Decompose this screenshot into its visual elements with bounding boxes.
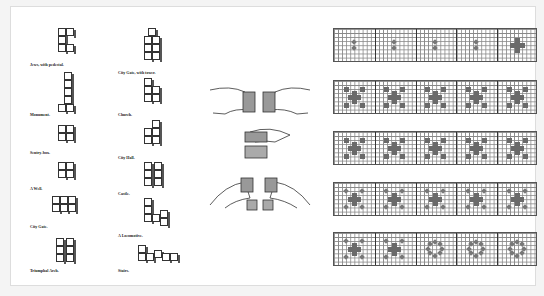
cube-block [152, 94, 160, 102]
pattern-tile [399, 254, 405, 260]
panel-divider [456, 29, 457, 61]
cube-block [66, 246, 74, 254]
cube-block [154, 162, 162, 170]
pattern-tile [425, 103, 430, 108]
cube-block [144, 198, 152, 206]
pattern-tile [523, 103, 528, 108]
cube-block [58, 162, 66, 170]
pattern-tile [391, 45, 397, 51]
pattern-tile [474, 99, 479, 104]
pattern-tile [482, 87, 487, 92]
cube-block [60, 204, 68, 212]
pattern-tile [441, 103, 446, 108]
cube-block [58, 36, 66, 44]
cube-block [162, 253, 170, 261]
pattern-tile [344, 103, 349, 108]
pattern-tile [399, 238, 405, 244]
pattern-tile [384, 138, 389, 143]
pattern-tile [433, 150, 438, 155]
pattern-tile [360, 154, 365, 159]
cube-block [60, 196, 68, 204]
cube-block [58, 133, 66, 141]
pattern-tile [440, 204, 446, 210]
pattern-tile [392, 251, 397, 256]
panel-divider [375, 29, 376, 61]
cube-block [58, 28, 66, 36]
pattern-tile [515, 142, 520, 147]
pattern-tile [383, 204, 389, 210]
pattern-tile [343, 238, 349, 244]
pattern-tile [507, 154, 512, 159]
cube-block [66, 104, 74, 112]
cube-block [152, 86, 160, 94]
pattern-tile [466, 154, 471, 159]
cube-block [58, 170, 66, 178]
pattern-tile [352, 150, 357, 155]
cube-block [138, 253, 146, 261]
pattern-tile [440, 188, 446, 194]
cube-block [68, 204, 76, 212]
cube-block [148, 28, 156, 36]
label-monument: Monument. [30, 112, 50, 117]
pattern-tile [383, 254, 389, 260]
pattern-tile [351, 45, 357, 51]
pattern-tile [391, 39, 397, 45]
cube-block [58, 44, 66, 52]
cube-block [146, 253, 154, 261]
cube-block [144, 162, 152, 170]
label-a-well: A Well. [30, 186, 42, 191]
cube-block [52, 204, 60, 212]
pattern-tile [383, 188, 389, 194]
pattern-tile [400, 154, 405, 159]
pattern-tile [400, 87, 405, 92]
pattern-tile [465, 204, 471, 210]
cube-block [144, 78, 152, 86]
cube-block [144, 170, 152, 178]
pattern-tile [399, 204, 405, 210]
pattern-tile [359, 238, 365, 244]
cube-block [66, 125, 74, 133]
cube-block [144, 94, 152, 102]
pattern-strip [333, 182, 537, 216]
pattern-tile [425, 138, 430, 143]
cube-block [144, 178, 152, 186]
pattern-strip [333, 232, 537, 266]
panel-divider [416, 233, 417, 265]
pattern-tile [352, 193, 357, 198]
pattern-tile [515, 38, 520, 43]
pattern-tile [343, 188, 349, 194]
cube-block [152, 52, 160, 60]
pattern-tile [473, 45, 479, 51]
pattern-tile [433, 201, 438, 206]
pattern-tile [392, 142, 397, 147]
pattern-tile [392, 91, 397, 96]
pattern-tile [506, 188, 512, 194]
cube-block [66, 170, 74, 178]
pattern-tile [482, 154, 487, 159]
pattern-tile [432, 45, 438, 51]
pattern-tile [474, 91, 479, 96]
panel-divider [497, 233, 498, 265]
pattern-tile [506, 204, 512, 210]
pattern-tile [384, 154, 389, 159]
pattern-tile [400, 138, 405, 143]
pattern-tile [515, 99, 520, 104]
pattern-tile [360, 87, 365, 92]
label-city-gate-tower: City Gate, with tower. [118, 70, 156, 75]
pattern-tile [343, 204, 349, 210]
pattern-tile [523, 87, 528, 92]
pattern-tile [352, 91, 357, 96]
cube-block [138, 245, 146, 253]
cube-block [66, 254, 74, 262]
cube-block [154, 250, 162, 258]
cube-block [144, 52, 152, 60]
pattern-tile [344, 154, 349, 159]
pattern-tile [515, 91, 520, 96]
panel-divider [416, 29, 417, 61]
pattern-tile [474, 193, 479, 198]
pattern-tile [507, 138, 512, 143]
cube-block [66, 133, 74, 141]
panel-divider [456, 81, 457, 113]
pattern-tile [433, 193, 438, 198]
label-triumphal-arch: Triumphal Arch. [30, 268, 59, 273]
